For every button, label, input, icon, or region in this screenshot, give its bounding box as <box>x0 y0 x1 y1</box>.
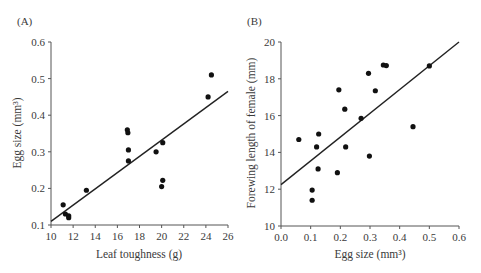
y-tick-label: 20 <box>264 36 276 48</box>
panel-a-scatter-chart: (A) 0.10.20.30.40.50.6 10121416182022242… <box>11 15 234 261</box>
data-point <box>342 107 347 112</box>
data-point <box>125 130 130 135</box>
data-point <box>384 63 389 68</box>
x-tick-label: 0.3 <box>363 231 377 243</box>
panel-a-trendline <box>51 91 228 221</box>
data-point <box>61 202 66 207</box>
data-point <box>126 147 131 152</box>
x-tick-label: 12 <box>68 230 79 242</box>
panel-b-trendline <box>281 42 459 185</box>
y-tick-label: 0.4 <box>31 109 45 121</box>
x-tick-label: 0.2 <box>333 231 347 243</box>
data-point <box>335 170 340 175</box>
x-tick-label: 18 <box>134 230 146 242</box>
panel-b-x-label: Egg size (mm³) <box>334 248 405 261</box>
x-tick-label: 0.0 <box>274 231 288 243</box>
data-point <box>336 87 341 92</box>
figure: (A) 0.10.20.30.40.50.6 10121416182022242… <box>0 0 481 273</box>
data-point <box>153 149 158 154</box>
data-point <box>126 158 131 163</box>
y-tick-label: 0.1 <box>31 219 45 231</box>
data-point <box>84 188 89 193</box>
panel-b-y-ticks: 101214161820 <box>264 36 281 232</box>
x-tick-label: 10 <box>46 230 58 242</box>
x-tick-label: 0.6 <box>452 231 466 243</box>
x-tick-label: 20 <box>156 230 168 242</box>
panel-a-x-label: Leaf toughness (g) <box>96 248 182 261</box>
data-point <box>160 140 165 145</box>
x-tick-label: 0.5 <box>422 231 436 243</box>
data-point <box>160 178 165 183</box>
y-tick-label: 12 <box>264 183 275 195</box>
panel-b-scatter-chart: (B) 101214161820 0.00.10.20.30.40.50.6 E… <box>245 15 466 261</box>
data-point <box>159 184 164 189</box>
data-point <box>205 94 210 99</box>
panel-a-label: (A) <box>17 15 33 28</box>
y-tick-label: 18 <box>264 73 276 85</box>
panel-b-axes <box>281 42 459 226</box>
y-tick-label: 0.5 <box>31 73 45 85</box>
x-tick-label: 22 <box>178 230 189 242</box>
x-tick-label: 0.4 <box>393 231 407 243</box>
data-point <box>366 71 371 76</box>
y-tick-label: 16 <box>264 110 276 122</box>
data-point <box>373 88 378 93</box>
y-tick-label: 0.3 <box>31 146 45 158</box>
data-point <box>209 72 214 77</box>
panel-a-y-label: Egg size (mm³) <box>11 97 24 168</box>
panel-b-points <box>296 62 432 202</box>
x-tick-label: 24 <box>200 230 212 242</box>
data-point <box>296 137 301 142</box>
panel-a-axes <box>51 42 228 225</box>
data-point <box>314 144 319 149</box>
data-point <box>310 188 315 193</box>
panel-a-y-ticks: 0.10.20.30.40.50.6 <box>31 36 51 231</box>
data-point <box>427 63 432 68</box>
x-tick-label: 0.1 <box>304 231 318 243</box>
data-point <box>316 131 321 136</box>
y-tick-label: 14 <box>264 146 276 158</box>
panel-b-label: (B) <box>247 15 262 28</box>
data-point <box>359 116 364 121</box>
panel-a-x-ticks: 101214161820222426 <box>46 225 235 242</box>
data-point <box>310 198 315 203</box>
x-tick-label: 26 <box>223 230 235 242</box>
data-point <box>66 215 71 220</box>
panel-b-y-label: Forewing length of female (mm) <box>245 57 258 208</box>
x-tick-label: 16 <box>112 230 124 242</box>
x-tick-label: 14 <box>90 230 102 242</box>
data-point <box>410 124 415 129</box>
y-tick-label: 0.2 <box>31 182 45 194</box>
data-point <box>315 166 320 171</box>
data-point <box>343 144 348 149</box>
panel-b-x-ticks: 0.00.10.20.30.40.50.6 <box>274 226 466 243</box>
data-point <box>367 153 372 158</box>
y-tick-label: 0.6 <box>31 36 45 48</box>
